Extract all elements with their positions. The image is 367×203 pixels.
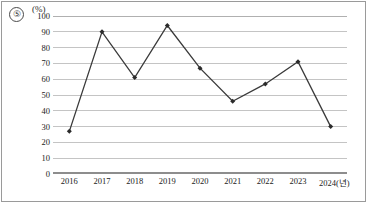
y-tick-label-30: 30 xyxy=(42,122,51,132)
y-tick-label-90: 90 xyxy=(42,27,51,37)
data-point-2024 xyxy=(328,124,333,129)
y-tick-label-80: 80 xyxy=(42,43,51,53)
y-tick-label-0: 0 xyxy=(46,169,50,179)
y-tick-label-20: 20 xyxy=(42,137,51,147)
x-tick-label-2023: 2023 xyxy=(290,176,307,186)
x-tick-label-2019: 2019 xyxy=(159,176,176,186)
x-tick-label-2021: 2021 xyxy=(224,176,241,186)
y-tick-label-70: 70 xyxy=(42,58,51,68)
y-tick-label-60: 60 xyxy=(42,74,51,84)
x-tick-label-2016: 2016 xyxy=(61,176,78,186)
x-axis-tick-labels: 201620172018201920202021202220232024(년) xyxy=(53,176,347,192)
series-polyline xyxy=(69,25,330,131)
y-tick-label-100: 100 xyxy=(37,11,50,21)
x-tick-label-2017: 2017 xyxy=(94,176,111,186)
data-point-2016 xyxy=(67,129,72,134)
y-axis-tick-labels: 0102030405060708090100 xyxy=(22,16,50,174)
y-tick-label-40: 40 xyxy=(42,106,51,116)
line-series xyxy=(53,16,347,174)
y-tick-label-10: 10 xyxy=(42,153,51,163)
plot-area xyxy=(53,16,347,174)
y-tick-label-50: 50 xyxy=(42,90,51,100)
x-tick-label-2022: 2022 xyxy=(257,176,274,186)
x-tick-label-2020: 2020 xyxy=(192,176,209,186)
x-tick-label-2018: 2018 xyxy=(126,176,143,186)
chart-figure: ⑤ (%) 0102030405060708090100 20162017201… xyxy=(0,0,367,203)
x-tick-label-2024: 2024(년) xyxy=(319,176,350,188)
